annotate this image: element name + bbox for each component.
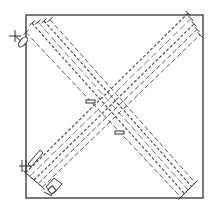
diagram-canvas	[0, 0, 215, 217]
outer-frame	[26, 15, 203, 198]
arrow-left-icon	[86, 100, 95, 103]
arrow-right-icon	[115, 131, 124, 134]
ascending-dashed-line	[42, 35, 200, 187]
descending-dashed-line	[38, 22, 188, 190]
ascending-dashed-line	[38, 29, 197, 183]
pen-marker-icon	[19, 150, 43, 172]
descending-dashed-line	[44, 21, 192, 187]
ascending-dashed-line	[26, 13, 188, 173]
oval-marker-icon	[17, 35, 29, 48]
ascending-dashed-line	[30, 19, 191, 177]
box-marker-icon	[44, 178, 62, 196]
ascending-line-bundle	[23, 11, 202, 190]
ascending-dashed-line	[34, 24, 194, 180]
line-end-tick	[198, 32, 203, 37]
line-end-tick	[193, 180, 198, 185]
